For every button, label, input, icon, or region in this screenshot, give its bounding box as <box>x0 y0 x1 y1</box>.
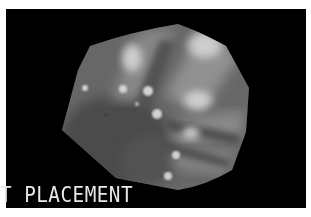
image-frame <box>6 9 306 208</box>
diffraction-pattern <box>6 9 306 208</box>
hexagonal-aperture <box>6 9 306 208</box>
caption-text: T PLACEMENT <box>0 185 133 206</box>
